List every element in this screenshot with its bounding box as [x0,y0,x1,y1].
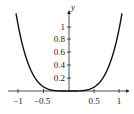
y-axis-label: y [70,2,75,12]
y-tick-label: 0.8 [54,34,66,44]
function-plot: −1 −0.5 0.5 1 0.2 0.4 0.6 0.8 1 y [0,0,134,114]
y-tick-label: 0.2 [54,73,65,83]
y-tick-label: 0.6 [54,47,66,57]
x-tick-label: 0.5 [88,96,100,106]
x-tick-label: −1 [13,96,23,106]
x-tick-label: 1 [117,96,122,106]
y-tick-label: 1 [61,22,66,32]
y-tick-label: 0.4 [54,60,66,70]
x-tick-label: −0.5 [34,96,51,106]
